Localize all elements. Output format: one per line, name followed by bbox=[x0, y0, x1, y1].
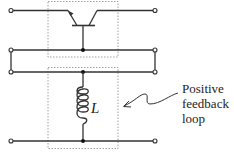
middle-rails bbox=[11, 50, 155, 72]
inductor-symbol bbox=[77, 72, 88, 141]
terminal-top-left bbox=[9, 9, 13, 13]
transistor-symbol bbox=[68, 11, 97, 51]
terminal-mid-left-upper bbox=[9, 48, 13, 52]
circuit-diagram bbox=[0, 0, 234, 153]
annotation-line-2: feedback bbox=[182, 96, 229, 111]
terminal-mid-right-upper bbox=[153, 48, 157, 52]
feedback-pointer-arrow-icon bbox=[124, 93, 179, 107]
annotation-line-1: Positive bbox=[182, 81, 229, 96]
junction-dot bbox=[81, 48, 85, 52]
terminal-bottom-right bbox=[153, 139, 157, 143]
terminal-mid-left-lower bbox=[9, 70, 13, 74]
terminal-mid-right-lower bbox=[153, 70, 157, 74]
emitter-arrow-icon bbox=[68, 11, 74, 17]
terminal-top-right bbox=[153, 9, 157, 13]
junction-dot bbox=[81, 139, 85, 143]
inductor-label: L bbox=[91, 100, 99, 117]
terminal-bottom-left bbox=[9, 139, 13, 143]
feedback-annotation: Positive feedback loop bbox=[182, 81, 229, 126]
annotation-line-3: loop bbox=[182, 111, 229, 126]
